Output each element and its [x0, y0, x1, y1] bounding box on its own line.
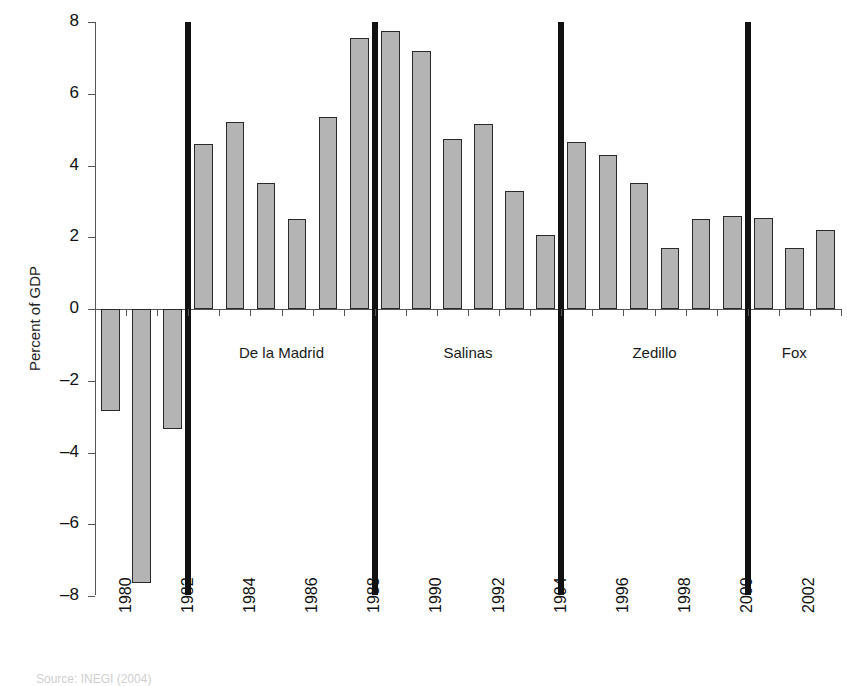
x-tick	[592, 309, 593, 316]
x-tick-label: 1984	[241, 577, 259, 613]
x-tick	[686, 309, 687, 316]
y-tick-label: 6	[45, 83, 79, 103]
bar	[412, 51, 431, 309]
y-tick-label: –6	[45, 513, 79, 533]
y-tick-label: 8	[45, 11, 79, 31]
y-tick-label: –4	[45, 442, 79, 462]
bar	[723, 216, 742, 309]
bar	[257, 183, 276, 309]
x-tick-label: 1986	[303, 577, 321, 613]
bar	[101, 309, 120, 411]
bar	[132, 309, 151, 583]
y-tick-label: –2	[45, 370, 79, 390]
x-tick-label: 2002	[800, 577, 818, 613]
x-tick	[406, 309, 407, 316]
y-tick	[88, 22, 95, 23]
y-tick-label: 0	[45, 298, 79, 318]
x-tick	[748, 309, 749, 316]
y-tick	[88, 166, 95, 167]
bar	[816, 230, 835, 309]
y-axis-title: Percent of GDP	[26, 209, 43, 429]
bar	[661, 248, 680, 309]
source-caption: Source: INEGI (2004)	[36, 672, 151, 686]
x-tick	[841, 309, 842, 316]
bar	[474, 124, 493, 309]
bar	[567, 142, 586, 309]
bar	[692, 219, 711, 309]
bar	[443, 139, 462, 309]
y-tick	[88, 309, 95, 310]
era-label: Zedillo	[561, 344, 748, 361]
y-tick-label: 4	[45, 155, 79, 175]
bar	[350, 38, 369, 309]
x-tick	[188, 309, 189, 316]
bar	[785, 248, 804, 309]
x-tick	[655, 309, 656, 316]
x-tick	[95, 309, 96, 316]
x-tick-label: 1980	[117, 577, 135, 613]
bar	[319, 117, 338, 309]
x-tick	[717, 309, 718, 316]
era-label: De la Madrid	[188, 344, 375, 361]
x-tick	[623, 309, 624, 316]
y-tick	[88, 596, 95, 597]
y-tick	[88, 453, 95, 454]
x-tick-label: 2000	[738, 577, 756, 613]
x-tick	[779, 309, 780, 316]
x-tick	[375, 309, 376, 316]
x-tick	[499, 309, 500, 316]
x-tick-label: 1994	[552, 577, 570, 613]
bar	[630, 183, 649, 309]
x-tick	[344, 309, 345, 316]
bar	[599, 155, 618, 309]
x-tick	[437, 309, 438, 316]
x-tick	[282, 309, 283, 316]
y-tick	[88, 381, 95, 382]
bar	[163, 309, 182, 429]
x-tick-label: 1990	[427, 577, 445, 613]
bar	[754, 218, 773, 309]
x-tick	[468, 309, 469, 316]
x-tick	[157, 309, 158, 316]
x-tick-label: 1996	[614, 577, 632, 613]
x-tick-label: 1982	[179, 577, 197, 613]
x-tick	[250, 309, 251, 316]
y-tick	[88, 237, 95, 238]
x-tick	[810, 309, 811, 316]
x-tick-label: 1998	[676, 577, 694, 613]
bar	[226, 122, 245, 309]
y-tick-label: –8	[45, 585, 79, 605]
era-label: Salinas	[375, 344, 562, 361]
y-tick-label: 2	[45, 226, 79, 246]
y-tick	[88, 524, 95, 525]
x-tick	[219, 309, 220, 316]
x-tick	[530, 309, 531, 316]
x-tick	[313, 309, 314, 316]
x-tick-label: 1992	[490, 577, 508, 613]
bar	[194, 144, 213, 309]
bar	[505, 191, 524, 309]
bar	[536, 235, 555, 309]
x-tick	[126, 309, 127, 316]
x-tick	[561, 309, 562, 316]
era-label: Fox	[748, 344, 841, 361]
bar	[288, 219, 307, 309]
bar	[381, 31, 400, 309]
x-tick-label: 1988	[365, 577, 383, 613]
y-tick	[88, 94, 95, 95]
